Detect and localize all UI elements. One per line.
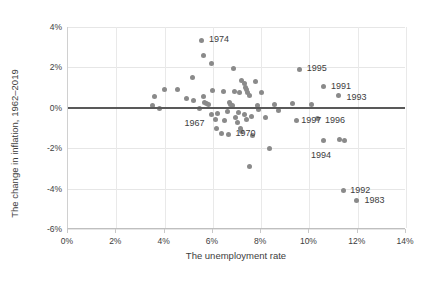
x-tick-mark [357, 229, 358, 233]
data-point [231, 66, 236, 71]
data-point [247, 93, 252, 98]
x-tick-label: 0% [47, 237, 87, 246]
data-point [235, 120, 240, 125]
data-point [184, 96, 189, 101]
data-point [213, 117, 218, 122]
data-point [221, 89, 226, 94]
gridline-horizontal [68, 229, 405, 230]
y-tick-label: -4% [8, 185, 62, 194]
data-point [267, 146, 272, 151]
x-tick-mark [212, 229, 213, 233]
data-point-label: 1993 [346, 93, 366, 102]
data-point [210, 88, 215, 93]
x-tick-mark [308, 229, 309, 233]
data-point [175, 87, 180, 92]
data-point-label: 1983 [365, 196, 385, 205]
data-point [152, 94, 157, 99]
data-point-label: 1996 [325, 116, 345, 125]
data-point [297, 67, 302, 72]
x-tick-mark [260, 229, 261, 233]
gridline-horizontal [68, 27, 405, 28]
data-point [342, 138, 347, 143]
data-point [276, 108, 281, 113]
data-point [321, 84, 326, 89]
y-tick-label: 2% [8, 63, 62, 72]
data-point [259, 90, 264, 95]
data-point [199, 38, 204, 43]
gridline-vertical [406, 27, 407, 228]
zero-line [68, 107, 405, 109]
data-point-label: 1997 [301, 116, 321, 125]
x-tick-mark [164, 229, 165, 233]
data-point-label: 1992 [350, 186, 370, 195]
gridline-vertical [261, 27, 262, 228]
data-point [214, 126, 219, 131]
x-tick-label: 6% [192, 237, 232, 246]
data-point [253, 79, 258, 84]
data-point [219, 131, 224, 136]
data-point [215, 111, 220, 116]
data-point [290, 101, 295, 106]
data-point [226, 132, 231, 137]
x-axis-title: The unemployment rate [67, 250, 405, 261]
data-point-label: 1974 [209, 35, 229, 44]
x-tick-mark [405, 229, 406, 233]
data-point [247, 164, 252, 169]
gridline-horizontal [68, 67, 405, 68]
data-point [244, 117, 249, 122]
gridline-vertical [309, 27, 310, 228]
data-point [294, 118, 299, 123]
data-point [162, 87, 167, 92]
gridline-horizontal [68, 148, 405, 149]
data-point [201, 94, 206, 99]
data-point [225, 109, 230, 114]
data-point [321, 138, 326, 143]
data-point [249, 114, 254, 119]
data-point-label: 1994 [311, 151, 331, 160]
data-point [190, 75, 195, 80]
x-tick-label: 8% [240, 237, 280, 246]
scatter-chart: The change in inflation, 1962–2019 4%2%0… [0, 0, 432, 287]
y-tick-label: -2% [8, 144, 62, 153]
data-point [237, 90, 242, 95]
data-point [263, 115, 268, 120]
data-point [209, 61, 214, 66]
x-tick-label: 12% [337, 237, 377, 246]
data-point-label: 1991 [331, 82, 351, 91]
gridline-vertical [116, 27, 117, 228]
data-point [201, 53, 206, 58]
data-point [341, 188, 346, 193]
x-tick-mark [115, 229, 116, 233]
data-point [222, 118, 227, 123]
data-point [191, 98, 196, 103]
x-tick-label: 10% [288, 237, 328, 246]
y-tick-label: 4% [8, 23, 62, 32]
gridline-vertical [165, 27, 166, 228]
x-tick-label: 2% [95, 237, 135, 246]
data-point-label: 1970 [236, 129, 256, 138]
x-tick-mark [67, 229, 68, 233]
y-tick-label: 0% [8, 104, 62, 113]
data-point-label: 1967 [185, 119, 205, 128]
x-tick-label: 4% [144, 237, 184, 246]
y-tick-label: -6% [8, 225, 62, 234]
data-point [336, 93, 341, 98]
data-point-label: 1995 [307, 64, 327, 73]
data-point [236, 110, 241, 115]
x-tick-label: 14% [385, 237, 425, 246]
